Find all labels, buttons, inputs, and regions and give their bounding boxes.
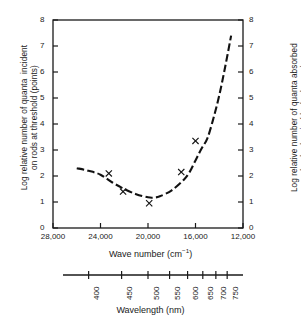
x-axis-tick-label: 24,000 bbox=[81, 232, 121, 241]
data-point-marker bbox=[178, 169, 184, 175]
y-axis-left-tick-label: 2 bbox=[40, 171, 44, 180]
y-axis-left-tick-label: 3 bbox=[40, 145, 44, 154]
wavelength-tick-label: 650 bbox=[206, 287, 215, 300]
y-axis-right-tick-label: 6 bbox=[249, 67, 253, 76]
wavelength-tick-label: 600 bbox=[191, 287, 200, 300]
y-axis-right-ticks bbox=[238, 20, 243, 228]
y-axis-right-tick-label: 7 bbox=[249, 41, 253, 50]
x-axis-title-text: Wave number (cm bbox=[109, 249, 182, 259]
y-axis-right-tick-label: 0 bbox=[249, 223, 253, 232]
x-axis-tick-label: 28,000 bbox=[33, 232, 73, 241]
y-axis-left-tick-label: 5 bbox=[40, 93, 44, 102]
y-axis-left-tick-label: 4 bbox=[40, 119, 44, 128]
y-axis-right-tick-label: 8 bbox=[249, 15, 253, 24]
rhodopsin-absorption-curve bbox=[77, 36, 231, 198]
y-axis-right-tick-label: 5 bbox=[249, 93, 253, 102]
chart-figure: Log relative number of quanta incident o… bbox=[0, 0, 301, 323]
data-point-marker bbox=[120, 189, 126, 195]
y-axis-left-tick-label: 1 bbox=[40, 197, 44, 206]
y-axis-right-tick-label: 4 bbox=[249, 119, 253, 128]
x-axis-ticks bbox=[53, 223, 243, 228]
data-point-marker bbox=[106, 170, 112, 176]
y-axis-left-tick-label: 6 bbox=[40, 67, 44, 76]
wavelength-tick-label: 400 bbox=[92, 287, 101, 300]
plot-area bbox=[0, 0, 301, 323]
wavelength-tick-label: 500 bbox=[152, 287, 161, 300]
y-axis-left-tick-label: 0 bbox=[40, 223, 44, 232]
y-axis-left-ticks bbox=[53, 20, 58, 228]
data-point-marker bbox=[146, 200, 152, 206]
y-axis-right-tick-label: 2 bbox=[249, 171, 253, 180]
wavelength-tick-label: 750 bbox=[231, 287, 240, 300]
threshold-data-points bbox=[106, 138, 199, 207]
y-axis-right-tick-label: 3 bbox=[249, 145, 253, 154]
x-axis-title: Wave number (cm−1) bbox=[0, 247, 301, 259]
data-point-marker bbox=[192, 138, 198, 144]
y-axis-right-tick-label: 1 bbox=[249, 197, 253, 206]
wavelength-tick-label: 700 bbox=[219, 287, 228, 300]
x-axis-tick-label: 16,000 bbox=[176, 232, 216, 241]
wavelength-axis-title: Wavelength (nm) bbox=[0, 305, 301, 315]
x-axis-title-paren: ) bbox=[189, 249, 192, 259]
wavelength-tick-label: 450 bbox=[125, 287, 134, 300]
wavelength-tick-label: 550 bbox=[173, 287, 182, 300]
x-axis-tick-label: 12,000 bbox=[223, 232, 263, 241]
x-axis-tick-label: 20,000 bbox=[128, 232, 168, 241]
y-axis-left-tick-label: 8 bbox=[40, 15, 44, 24]
y-axis-left-tick-label: 7 bbox=[40, 41, 44, 50]
